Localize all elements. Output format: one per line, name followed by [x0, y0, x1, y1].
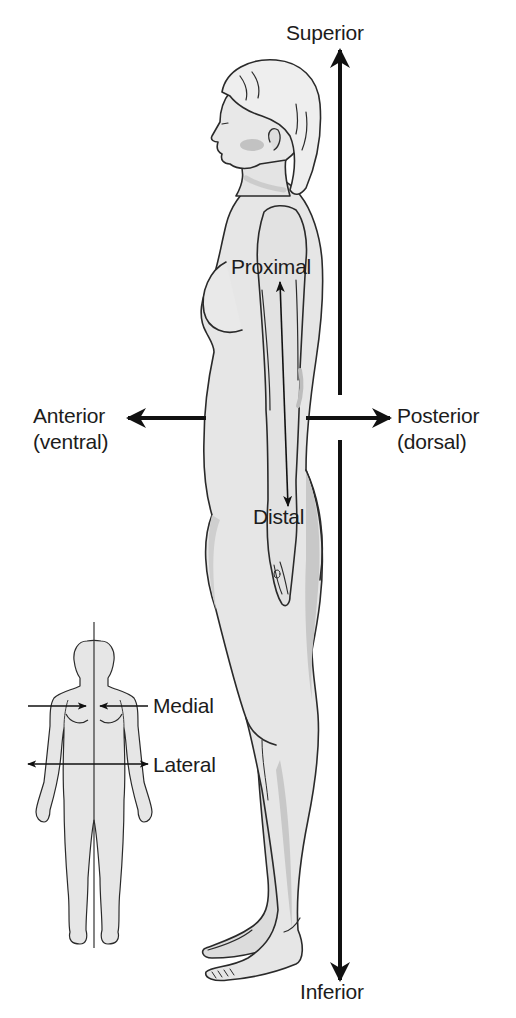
label-medial: Medial — [153, 694, 214, 718]
label-distal: Distal — [253, 505, 304, 529]
label-superior: Superior — [286, 21, 364, 45]
label-inferior: Inferior — [300, 980, 364, 1004]
label-posterior: Posterior (dorsal) — [397, 403, 479, 455]
label-anterior-main: Anterior — [33, 403, 108, 429]
label-posterior-alt: (dorsal) — [397, 429, 479, 455]
label-anterior: Anterior (ventral) — [33, 403, 108, 455]
label-lateral: Lateral — [153, 753, 216, 777]
label-anterior-alt: (ventral) — [33, 429, 108, 455]
label-proximal: Proximal — [231, 255, 311, 279]
label-posterior-main: Posterior — [397, 403, 479, 429]
